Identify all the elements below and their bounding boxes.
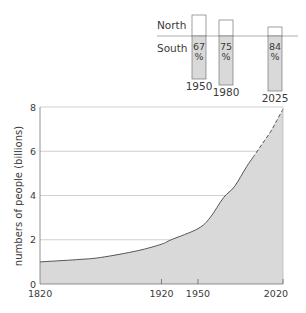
y-tick-label: 8 (30, 102, 36, 113)
bar-value-unit: % (221, 51, 230, 62)
population-area-chart: 02468 1820192019502020 numbers of people… (13, 102, 288, 300)
x-tick-label: 2020 (264, 288, 288, 299)
bar-value-unit: % (194, 51, 203, 62)
y-tick-label: 6 (30, 146, 36, 157)
row-label-south: South (157, 42, 188, 54)
bar-north-1950 (192, 15, 206, 36)
population-area-fill (40, 109, 283, 284)
y-tick-label: 4 (30, 190, 36, 201)
bar-north-2025 (268, 27, 282, 36)
bar-value-unit: % (270, 51, 279, 62)
bar-category-label: 1950 (186, 80, 213, 92)
bar-north-1980 (219, 20, 233, 36)
bar-category-label: 1980 (213, 86, 240, 98)
x-tick-label: 1950 (186, 288, 210, 299)
bar-category-label: 2025 (262, 92, 289, 104)
row-label-north: North (157, 19, 186, 31)
population-chart: North South 67%195075%198084%2025 02468 … (0, 0, 306, 313)
north-south-inset: North South 67%195075%198084%2025 (157, 15, 298, 104)
y-axis-label: numbers of people (billions) (13, 126, 24, 266)
x-tick-label: 1920 (149, 288, 173, 299)
y-tick-label: 2 (30, 234, 36, 245)
x-tick-label: 1820 (28, 288, 52, 299)
